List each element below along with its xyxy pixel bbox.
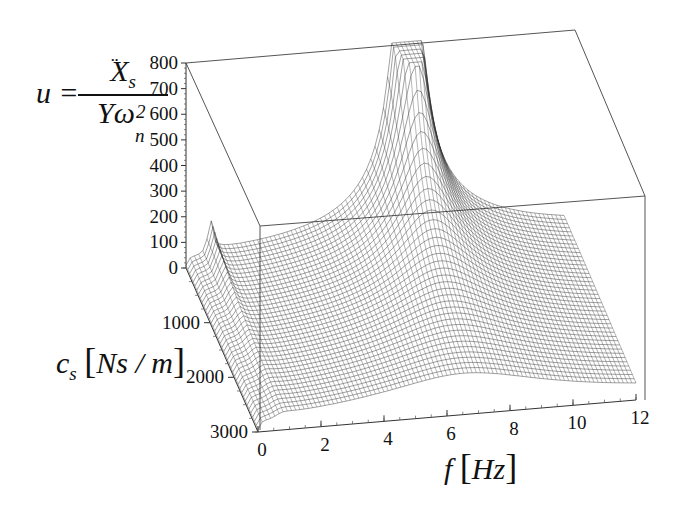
f-tick-label: 10	[568, 412, 587, 433]
z-tick-label: 300	[150, 180, 179, 201]
right-bracket: ]	[173, 341, 185, 381]
f-var: f	[444, 452, 452, 485]
f-tick-label: 4	[383, 428, 393, 449]
den-sub: n	[135, 125, 145, 147]
cs-tick-label: 1000	[162, 312, 200, 333]
den-sup: 2	[136, 101, 146, 123]
f-tick-label: 12	[631, 407, 650, 428]
f-tick-label: 0	[257, 439, 267, 460]
f-tick-label: 6	[446, 423, 456, 444]
f-tick-label: 8	[509, 418, 519, 439]
z-tick-label: 500	[150, 129, 179, 150]
z-tick-label: 400	[150, 155, 179, 176]
cs-unit: Ns / m	[96, 346, 173, 379]
z-label-numerator: ¨ Xs	[78, 54, 168, 92]
cs-tick-label: 3000	[210, 421, 248, 442]
numerator-sub: s	[128, 71, 135, 92]
left-bracket: [	[460, 447, 472, 487]
right-bracket: ]	[505, 447, 517, 487]
z-axis-label-lhs: u =	[36, 76, 79, 110]
z-tick-label: 100	[150, 231, 179, 252]
z-axis-label-fraction: ¨ Xs Yω2n	[78, 54, 168, 130]
left-bracket: [	[84, 341, 96, 381]
cs-tick-label: 2000	[186, 366, 224, 387]
x-axis-label: f [Hz]	[444, 446, 517, 488]
z-label-denominator: Yω2n	[78, 96, 168, 130]
z-tick-label: 0	[169, 257, 179, 278]
f-tick-label: 2	[320, 434, 330, 455]
cs-var: c	[56, 346, 69, 379]
z-tick-label: 200	[150, 206, 179, 227]
f-unit: Hz	[472, 452, 505, 485]
cs-sub: s	[69, 363, 76, 384]
den-main: Yω	[97, 96, 135, 129]
y-axis-label: cs [Ns / m]	[56, 340, 185, 385]
wireframe-surface	[186, 41, 636, 430]
double-dot-accent: ¨	[111, 52, 119, 78]
